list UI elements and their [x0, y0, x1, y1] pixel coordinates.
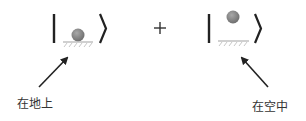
- ket-ground: [54, 14, 106, 47]
- arrow-to-air-icon: [242, 58, 268, 87]
- ball-icon: [227, 11, 240, 24]
- ground-icon: [63, 42, 93, 47]
- label-in-air: 在空中: [252, 100, 288, 114]
- label-on-ground: 在地上: [17, 97, 53, 111]
- ket-angle-icon: [100, 14, 106, 43]
- ball-icon: [72, 29, 85, 42]
- ground-icon: [218, 41, 249, 46]
- plus-icon: [154, 22, 166, 34]
- ket-air: [209, 11, 261, 47]
- arrow-to-ground-icon: [39, 58, 67, 87]
- ket-angle-icon: [255, 14, 261, 43]
